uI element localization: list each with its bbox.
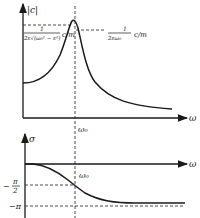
phase-x-label: ω (189, 159, 197, 169)
omega0-label-top: ω₀ (78, 125, 89, 134)
amplitude-curve (23, 20, 172, 109)
svg-text:c/m: c/m (62, 31, 75, 39)
svg-text:1: 1 (123, 25, 127, 32)
phase-y-label: σ (29, 134, 36, 144)
resonance-diagram: |c| ω 1 2ε√(ω₀² − ε²) c/m 1 2εω₀ c/m ω₀ … (0, 0, 200, 218)
svg-text:π: π (12, 178, 18, 186)
phase-curve (25, 164, 185, 203)
svg-text:2ε√(ω₀² − ε²): 2ε√(ω₀² − ε²) (23, 35, 60, 41)
svg-text:2εω₀: 2εω₀ (107, 35, 122, 41)
peak-value-label-right: 1 2εω₀ c/m (107, 25, 147, 41)
minus-half-pi-tick: − π 2 (3, 178, 20, 195)
svg-text:c/m: c/m (134, 31, 147, 39)
svg-text:1: 1 (40, 25, 44, 32)
amplitude-x-label: ω (189, 113, 197, 123)
svg-text:−: − (3, 182, 10, 191)
phase-plot: σ ω ω₀ − π 2 −π (3, 134, 197, 218)
svg-text:2: 2 (12, 187, 18, 195)
minus-pi-tick: −π (9, 202, 22, 211)
omega0-label-bottom: ω₀ (79, 171, 90, 180)
amplitude-y-label: |c| (27, 5, 38, 16)
amplitude-plot: |c| ω 1 2ε√(ω₀² − ε²) c/m 1 2εω₀ c/m (23, 4, 197, 123)
